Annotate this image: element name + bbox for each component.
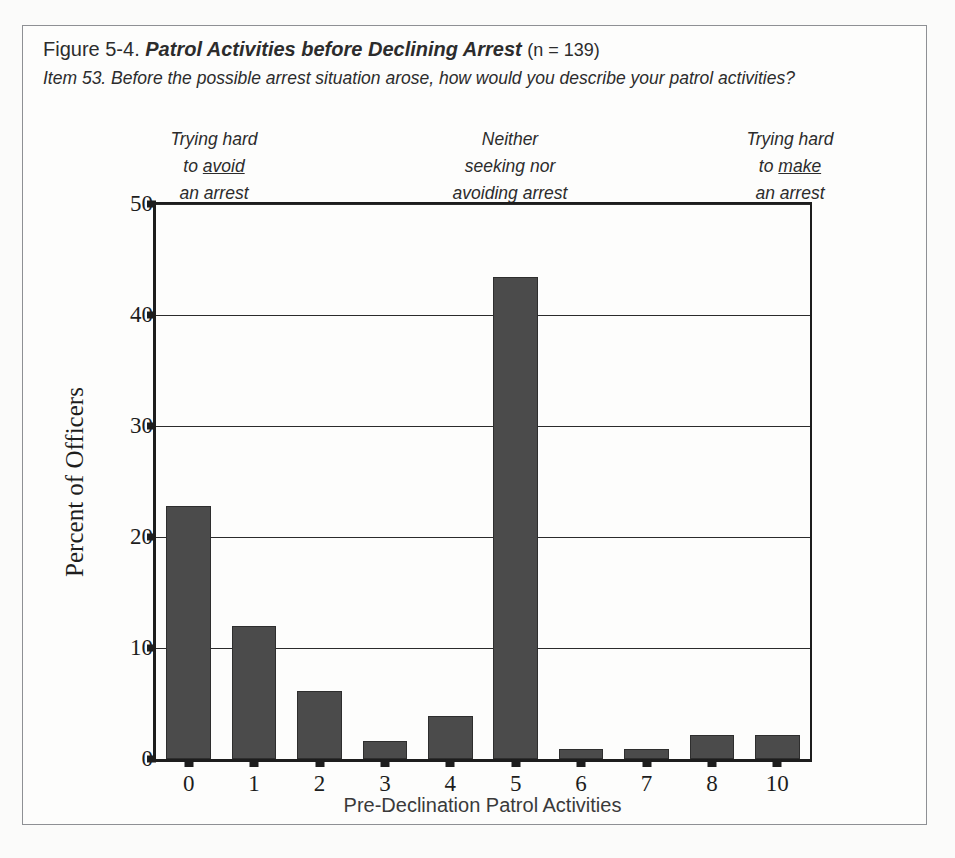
bar-5	[493, 277, 537, 759]
x-tick-mark-2	[315, 759, 324, 767]
figure-caption: Figure 5-4. Patrol Activities before Dec…	[43, 36, 912, 90]
anchor-label-middle: Neither seeking nor avoiding arrest	[405, 126, 615, 207]
bar-6	[559, 749, 603, 759]
anchor-right-line-1: Trying hard	[695, 126, 885, 153]
y-tick-label-20: 20	[130, 524, 153, 550]
figure-title: Patrol Activities before Declining Arres…	[145, 38, 521, 60]
bar-4	[428, 716, 472, 759]
x-tick-mark-1	[250, 759, 259, 767]
figure-frame: Figure 5-4. Patrol Activities before Dec…	[22, 25, 927, 825]
anchor-right-line-2-underline: make	[778, 156, 821, 176]
anchor-left-line-2-underline: avoid	[203, 156, 245, 176]
bar-3	[363, 741, 407, 759]
anchor-right-line-2-pre: to	[759, 156, 778, 176]
caption-line-1: Figure 5-4. Patrol Activities before Dec…	[43, 36, 912, 63]
plot-area: 01020304050 01234567810	[153, 202, 812, 762]
anchor-middle-line-1: Neither	[405, 126, 615, 153]
anchor-label-right: Trying hard to make an arrest	[695, 126, 885, 207]
bar-1	[232, 626, 276, 759]
anchor-left-line-1: Trying hard	[119, 126, 309, 153]
y-tick-label-10: 10	[130, 635, 153, 661]
x-axis-title: Pre-Declination Patrol Activities	[153, 794, 812, 817]
x-tick-mark-8	[707, 759, 716, 767]
y-tick-label-40: 40	[130, 302, 153, 328]
bar-series: 01234567810	[156, 204, 810, 759]
bar-10	[755, 735, 799, 759]
figure-number: Figure 5-4.	[43, 38, 140, 60]
bar-7	[624, 749, 668, 759]
x-tick-mark-6	[577, 759, 586, 767]
x-tick-mark-0	[184, 759, 193, 767]
x-tick-mark-10	[773, 759, 782, 767]
anchor-right-line-2: to make	[695, 153, 885, 180]
bar-2	[297, 691, 341, 759]
x-tick-mark-3	[380, 759, 389, 767]
bar-0	[166, 506, 210, 759]
y-tick-label-0: 0	[142, 746, 154, 772]
x-tick-mark-5	[511, 759, 520, 767]
bar-8	[690, 735, 734, 759]
anchor-left-line-2: to avoid	[119, 153, 309, 180]
y-axis-title: Percent of Officers	[58, 202, 92, 762]
anchor-left-line-2-pre: to	[183, 156, 202, 176]
anchor-middle-line-2: seeking nor	[405, 153, 615, 180]
x-tick-mark-7	[642, 759, 651, 767]
x-tick-mark-4	[446, 759, 455, 767]
figure-item-question: Item 53. Before the possible arrest situ…	[43, 66, 912, 90]
y-tick-label-30: 30	[130, 413, 153, 439]
y-tick-label-50: 50	[130, 191, 153, 217]
figure-sample-size: (n = 139)	[527, 40, 600, 60]
